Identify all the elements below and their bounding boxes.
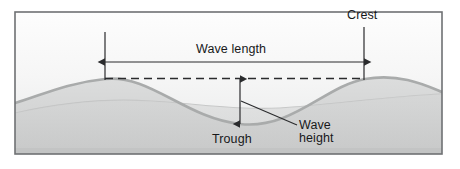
wave-height-label-line1: Wave (299, 119, 334, 132)
seafloor-band (15, 148, 442, 154)
wave-height-label: Wave height (299, 119, 334, 145)
wave-diagram-figure: Crest Wave length Trough Wave height (0, 0, 460, 169)
wave-length-label: Wave length (196, 43, 266, 56)
trough-label: Trough (212, 133, 252, 146)
crest-label: Crest (347, 9, 377, 22)
wave-height-label-line2: height (299, 132, 334, 145)
